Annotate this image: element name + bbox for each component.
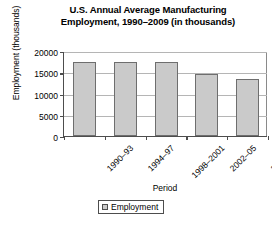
chart-title: U.S. Annual Average Manufacturing Employ…: [30, 4, 266, 28]
chart-title-line-2: Employment, 1990–2009 (in thousands): [30, 16, 266, 28]
x-axis-tick: [268, 136, 269, 140]
legend: Employment: [98, 200, 164, 214]
y-axis-tick-label: 0: [53, 133, 58, 143]
x-axis-category-label: 2002–05: [227, 143, 257, 173]
x-axis-tick: [186, 136, 187, 140]
y-axis-tick-label: 10000: [34, 90, 58, 100]
x-axis-tick: [146, 136, 147, 140]
y-axis-label: Employment (thousands): [11, 0, 21, 113]
bar: [114, 62, 137, 136]
bar: [236, 79, 259, 136]
x-axis-category-label: 1998–2001: [189, 143, 226, 180]
x-axis-category-label: 2006–09: [268, 143, 272, 173]
y-axis-tick: 10000: [34, 86, 64, 104]
legend-label-employment: Employment: [111, 202, 158, 212]
y-axis-tick-label: 20000: [34, 48, 58, 58]
chart-title-line-1: U.S. Annual Average Manufacturing: [30, 4, 266, 16]
y-axis-tick: 0: [53, 128, 64, 146]
x-axis-tick: [105, 136, 106, 140]
y-axis-tick: 5000: [39, 107, 64, 125]
bar: [73, 62, 96, 136]
x-axis-tick: [227, 136, 228, 140]
x-axis-category-label: 1994–97: [146, 143, 176, 173]
y-axis-tick: 15000: [34, 64, 64, 82]
y-axis-tick: 20000: [34, 43, 64, 61]
legend-swatch-employment: [102, 204, 108, 210]
x-axis-tick: [64, 136, 65, 140]
bar-series: [64, 52, 267, 136]
y-axis-tick-label: 15000: [34, 69, 58, 79]
plot-area: 05000100001500020000: [63, 52, 267, 137]
chart-container: U.S. Annual Average Manufacturing Employ…: [0, 0, 272, 225]
bar: [195, 74, 218, 136]
x-axis-label: Period: [63, 183, 267, 193]
bar: [155, 62, 178, 136]
x-axis-category-label: 1990–93: [105, 143, 135, 173]
y-axis-tick-label: 5000: [39, 112, 58, 122]
